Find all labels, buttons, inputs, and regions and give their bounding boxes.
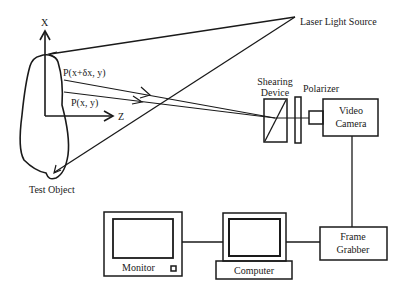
shearography-diagram: X Z P(x+δx, y) P(x, y) Laser Light Sourc… (0, 0, 405, 296)
point-p-shifted-label: P(x+δx, y) (63, 67, 106, 79)
monitor: Monitor (104, 212, 182, 276)
laser-label: Laser Light Source (300, 16, 377, 27)
z-axis: Z (45, 111, 124, 122)
monitor-label: Monitor (122, 262, 155, 273)
camera-label-2: Camera (335, 118, 367, 129)
monitor-power-button (171, 266, 176, 271)
point-p-label: P(x, y) (71, 97, 98, 109)
polarizer: Polarizer (295, 83, 340, 143)
grabber-label-2: Grabber (337, 244, 370, 255)
grabber-label-1: Frame (340, 231, 366, 242)
axis-z-label: Z (118, 111, 124, 122)
x-axis: X (40, 17, 50, 116)
shearing-label-1: Shearing (257, 76, 293, 87)
computer: Computer (216, 213, 292, 279)
computer-label: Computer (234, 265, 275, 276)
test-object-label: Test Object (29, 184, 75, 195)
polarizer-label: Polarizer (303, 83, 340, 94)
video-camera: Video Camera (309, 99, 378, 136)
axis-x-label: X (41, 17, 49, 28)
frame-grabber: Frame Grabber (320, 227, 387, 260)
camera-label-1: Video (339, 105, 363, 116)
shearing-label-2: Device (261, 87, 290, 98)
shearing-device: Shearing Device (257, 76, 293, 142)
